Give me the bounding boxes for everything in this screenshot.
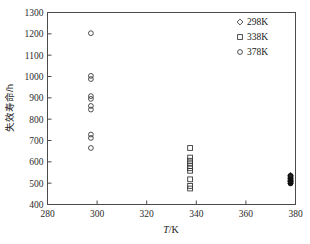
legend-label-338K: 338K <box>247 32 268 42</box>
series-338K <box>188 146 193 191</box>
data-point <box>89 146 94 151</box>
x-tick-label: 300 <box>90 209 105 219</box>
y-tick-label: 1300 <box>25 8 44 18</box>
chart-figure: 4005006007008009001000110012001300 28030… <box>0 0 310 244</box>
x-axis-ticks <box>97 201 246 205</box>
legend-marker-298K <box>237 19 243 25</box>
x-tick-label: 320 <box>140 209 155 219</box>
data-point <box>188 155 193 160</box>
y-tick-label: 700 <box>29 136 44 146</box>
data-point <box>89 77 94 82</box>
series-378K <box>89 31 94 151</box>
y-tick-label: 800 <box>29 115 44 125</box>
y-tick-label: 500 <box>29 179 44 189</box>
y-tick-label: 600 <box>29 157 44 167</box>
dense-cluster-378K <box>288 174 292 186</box>
data-point <box>89 31 94 36</box>
x-tick-label: 280 <box>40 209 55 219</box>
x-tick-label: 380 <box>288 209 303 219</box>
data-point <box>89 107 94 112</box>
y-tick-label: 1000 <box>25 72 44 82</box>
y-tick-label: 1200 <box>25 29 44 39</box>
data-point <box>89 136 94 141</box>
x-axis-title: T/K <box>163 224 179 235</box>
legend-marker-338K <box>238 35 243 40</box>
x-axis-tick-labels: 280300320340360380 <box>40 209 303 219</box>
data-point <box>188 177 193 182</box>
y-axis-tick-labels: 4005006007008009001000110012001300 <box>25 8 44 210</box>
x-tick-label: 340 <box>189 209 204 219</box>
legend: 298K338K378K <box>237 17 268 57</box>
legend-marker-378K <box>238 50 243 55</box>
y-tick-label: 1100 <box>25 51 44 61</box>
legend-label-378K: 378K <box>247 47 268 57</box>
legend-label-298K: 298K <box>247 17 268 27</box>
y-axis-title: 失效寿命/h <box>4 84 15 132</box>
scatter-plot: 4005006007008009001000110012001300 28030… <box>0 0 310 244</box>
x-tick-label: 360 <box>239 209 254 219</box>
data-point <box>188 146 193 151</box>
y-axis-ticks <box>48 13 52 205</box>
y-tick-label: 900 <box>29 93 44 103</box>
